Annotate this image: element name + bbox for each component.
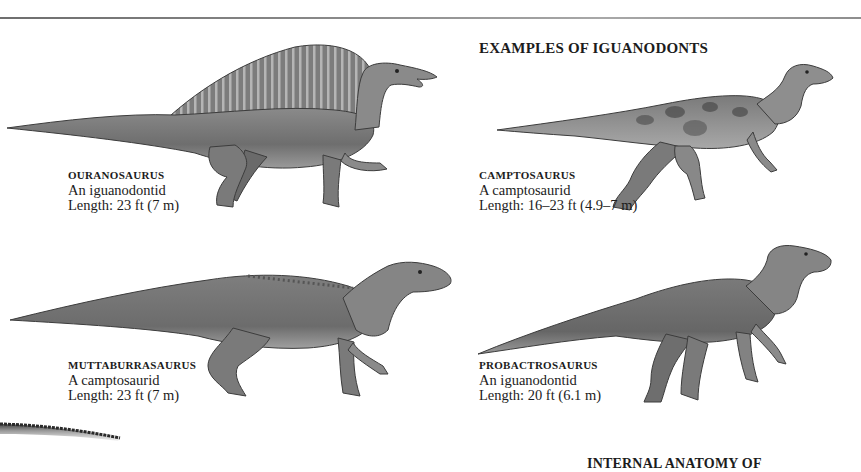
partial-section-heading: INTERNAL ANATOMY OF (587, 456, 762, 472)
section-title: EXAMPLES OF IGUANODONTS (479, 40, 708, 57)
dinosaur-name: MUTTABURRASAURUS (68, 358, 196, 373)
dinosaur-length: Length: 23 ft (7 m) (68, 198, 179, 213)
dinosaur-family: An iguanodontid (68, 183, 179, 198)
dinosaur-name: OURANOSAURUS (68, 168, 179, 183)
dinosaur-name: CAMPTOSAURUS (479, 168, 637, 183)
ouranosaurus-caption: OURANOSAURUS An iguanodontid Length: 23 … (68, 168, 179, 213)
muttaburrasaurus-caption: MUTTABURRASAURUS A camptosaurid Length: … (68, 358, 196, 403)
dinosaur-family: A camptosaurid (68, 373, 196, 388)
dinosaur-length: Length: 20 ft (6.1 m) (479, 388, 601, 403)
probactrosaurus-caption: PROBACTROSAURUS An iguanodontid Length: … (479, 358, 601, 403)
top-divider-rule (0, 17, 861, 19)
dinosaur-length: Length: 23 ft (7 m) (68, 388, 196, 403)
dinosaur-family: An iguanodontid (479, 373, 601, 388)
dinosaur-family: A camptosaurid (479, 183, 637, 198)
partial-tail-illustration (0, 420, 125, 442)
camptosaurus-caption: CAMPTOSAURUS A camptosaurid Length: 16–2… (479, 168, 637, 213)
dinosaur-name: PROBACTROSAURUS (479, 358, 601, 373)
dinosaur-length: Length: 16–23 ft (4.9–7 m) (479, 198, 637, 213)
